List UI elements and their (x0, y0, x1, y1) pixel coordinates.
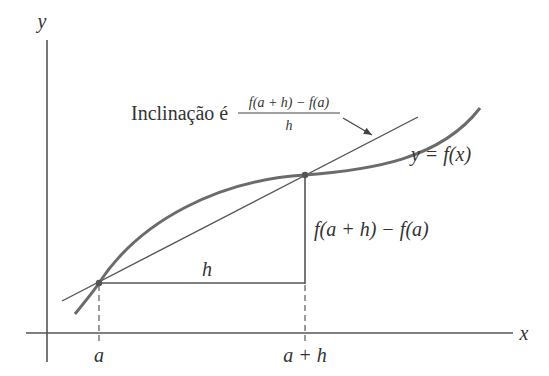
slope-annotation-prefix: Inclinação é (131, 102, 228, 125)
annotation-arrow (343, 118, 372, 135)
point-a-plus-h (302, 172, 308, 178)
tick-label-a-plus-h: a + h (283, 344, 327, 366)
slope-fraction-denominator: h (286, 118, 293, 133)
curve-label: y = f(x) (409, 143, 471, 166)
x-axis-label: x (519, 322, 529, 344)
secant-slope-diagram: y x Inclinação é f(a + h) − f(a) h y = f… (0, 0, 549, 376)
run-label: h (202, 258, 212, 280)
rise-label: f(a + h) − f(a) (314, 218, 429, 241)
tick-label-a: a (94, 344, 104, 366)
slope-fraction-numerator: f(a + h) − f(a) (249, 95, 330, 111)
secant-line (62, 117, 418, 301)
y-axis-label: y (36, 10, 47, 33)
point-a (96, 280, 102, 286)
